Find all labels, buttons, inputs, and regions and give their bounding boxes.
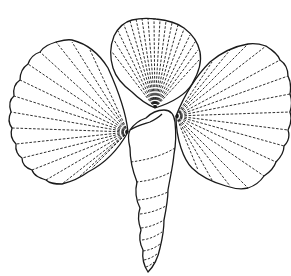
shell-illustration <box>0 0 291 276</box>
tower-snail-shell <box>129 110 176 272</box>
illustration-canvas: Line drawing of three scallop shells arr… <box>0 0 291 276</box>
left-scallop-shell <box>9 40 128 184</box>
